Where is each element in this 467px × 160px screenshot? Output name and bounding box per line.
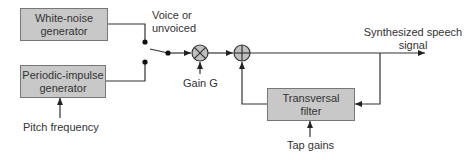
output-label-line1: Synthesized speech xyxy=(358,26,467,39)
switch-blade xyxy=(150,49,168,53)
gain-label: Gain G xyxy=(183,77,218,90)
periodic-impulse-generator-block: Periodic-impulse generator xyxy=(20,65,106,98)
voice-label-line1: Voice or xyxy=(152,9,196,22)
pitch-frequency-label: Pitch frequency xyxy=(23,121,99,134)
adder-icon xyxy=(234,45,250,61)
transversal-filter-block: Transversal filter xyxy=(267,88,355,121)
switch-contact-lower xyxy=(142,59,147,64)
impulse-wire xyxy=(105,62,145,81)
output-label-line2: signal xyxy=(358,39,467,52)
switch-pivot xyxy=(165,50,170,55)
white-noise-generator-block: White-noise generator xyxy=(20,8,108,41)
output-signal-label: Synthesized speech signal xyxy=(358,26,467,52)
white-noise-label-line1: White-noise xyxy=(35,12,93,25)
switch-contact-upper xyxy=(142,39,147,44)
white-noise-wire xyxy=(108,24,145,42)
white-noise-label-line2: generator xyxy=(35,25,93,38)
periodic-impulse-label-line1: Periodic-impulse xyxy=(22,69,103,82)
multiplier-icon xyxy=(192,45,208,61)
transversal-filter-label-line1: Transversal xyxy=(282,92,339,105)
periodic-impulse-label-line2: generator xyxy=(22,82,103,95)
voice-unvoiced-label: Voice or unvoiced xyxy=(152,9,196,35)
tap-gains-label: Tap gains xyxy=(287,139,334,152)
voice-label-line2: unvoiced xyxy=(152,22,196,35)
transversal-filter-label-line2: filter xyxy=(282,105,339,118)
